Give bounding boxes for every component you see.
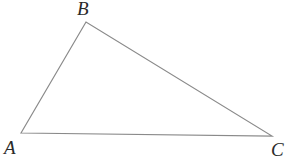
- triangle-abc-shape: [21, 22, 272, 136]
- geometry-figure: A B C: [0, 0, 302, 161]
- vertex-label-c: C: [271, 140, 284, 159]
- triangle-canvas: [0, 0, 302, 161]
- vertex-label-b: B: [77, 0, 89, 18]
- vertex-label-a: A: [4, 138, 16, 157]
